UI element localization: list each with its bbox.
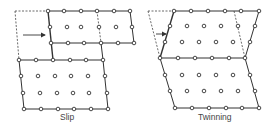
deformation-diagram <box>0 0 276 133</box>
twinning-panel <box>148 9 261 110</box>
twinning-label: Twinning <box>198 112 232 122</box>
twinning-atoms <box>158 9 261 110</box>
slip-panel <box>15 9 136 111</box>
slip-original-outline <box>15 11 101 60</box>
slip-label: Slip <box>60 112 74 122</box>
